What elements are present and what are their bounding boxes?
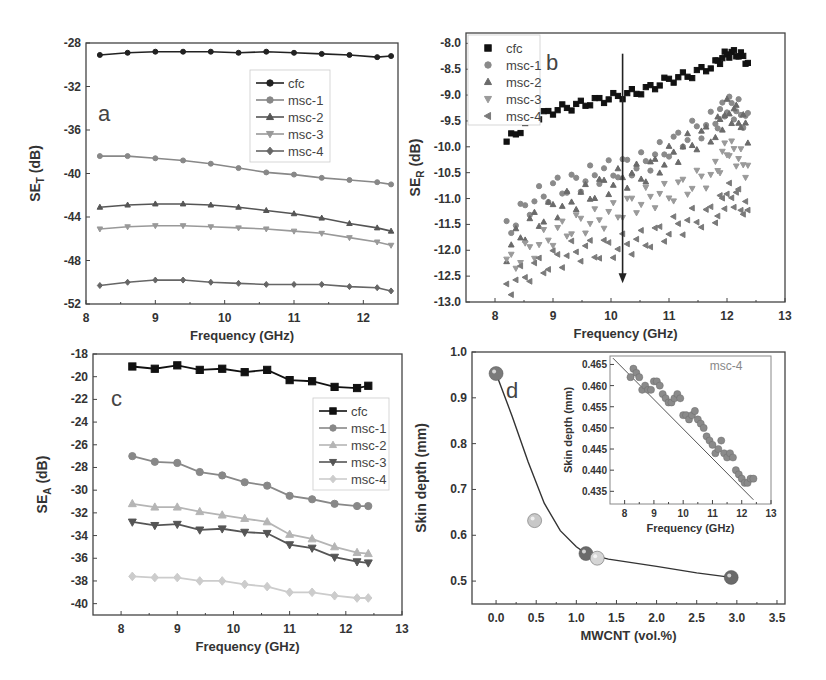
data-point bbox=[508, 292, 513, 298]
data-point bbox=[690, 76, 695, 81]
legend-marker-icon bbox=[485, 62, 491, 68]
panel-letter: c bbox=[111, 386, 122, 411]
data-point bbox=[518, 235, 524, 240]
data-point bbox=[319, 51, 324, 56]
data-point bbox=[722, 141, 728, 146]
y-tick-label: 0.5 bbox=[450, 574, 467, 588]
legend-label: msc-4 bbox=[506, 109, 541, 124]
data-point bbox=[601, 226, 607, 231]
data-point bbox=[694, 219, 699, 225]
data-point bbox=[564, 234, 570, 239]
y-tick-label: 0.9 bbox=[450, 391, 467, 405]
data-point bbox=[292, 281, 297, 287]
data-point bbox=[331, 500, 338, 507]
data-point bbox=[388, 228, 394, 233]
x-tick-label: 1.5 bbox=[608, 611, 625, 625]
data-point bbox=[606, 97, 611, 102]
data-point bbox=[264, 227, 270, 232]
data-point bbox=[738, 147, 744, 152]
data-point bbox=[671, 134, 676, 139]
panel-letter: d bbox=[506, 378, 518, 403]
data-point bbox=[319, 175, 324, 180]
x-tick-label: 12 bbox=[339, 622, 353, 636]
y-tick-label: -44 bbox=[64, 210, 82, 224]
data-point bbox=[745, 163, 751, 168]
legend-marker-icon bbox=[485, 45, 491, 51]
data-point bbox=[712, 220, 717, 226]
x-tick-label: 12 bbox=[357, 311, 371, 325]
data-point bbox=[671, 80, 676, 85]
inset-data-point bbox=[636, 374, 643, 381]
data-point bbox=[365, 382, 372, 389]
data-point bbox=[174, 362, 181, 369]
data-point bbox=[638, 228, 643, 234]
data-point bbox=[489, 367, 503, 381]
y-tick-label: -36 bbox=[64, 123, 82, 137]
data-point bbox=[733, 164, 739, 169]
data-point bbox=[657, 83, 662, 88]
panel-letter: a bbox=[98, 101, 111, 126]
data-point bbox=[375, 180, 380, 185]
data-point bbox=[578, 258, 583, 264]
data-point bbox=[181, 277, 186, 283]
data-point bbox=[569, 108, 574, 113]
data-point bbox=[615, 246, 620, 252]
panel-letter: b bbox=[546, 50, 558, 75]
data-point bbox=[375, 285, 380, 291]
data-point bbox=[724, 570, 738, 584]
y-tick-label: 0.445 bbox=[582, 444, 607, 455]
data-point bbox=[536, 184, 541, 189]
legend: cfcmsc-1msc-2msc-3msc-4 bbox=[250, 70, 330, 162]
x-tick-label: 13 bbox=[395, 622, 409, 636]
y-tick-label: 0.455 bbox=[582, 402, 607, 413]
data-point bbox=[219, 577, 226, 586]
y-tick-label: -40 bbox=[71, 597, 89, 611]
inset-title: msc-4 bbox=[710, 359, 743, 373]
x-tick-label: 10 bbox=[227, 622, 241, 636]
data-point bbox=[606, 158, 611, 163]
data-point bbox=[365, 502, 372, 509]
data-point bbox=[657, 139, 662, 144]
data-point bbox=[374, 225, 380, 230]
x-axis-label: MWCNT (vol.%) bbox=[580, 628, 676, 643]
x-tick-label: 0.0 bbox=[488, 611, 505, 625]
data-point bbox=[541, 228, 547, 233]
data-point bbox=[717, 106, 722, 111]
data-point bbox=[731, 147, 737, 152]
x-tick-label: 10 bbox=[678, 508, 690, 519]
legend-marker-icon bbox=[330, 408, 336, 414]
data-point bbox=[292, 172, 297, 177]
series-msc-4 bbox=[97, 277, 393, 294]
inset-data-point bbox=[750, 475, 757, 482]
data-point bbox=[694, 168, 700, 173]
data-point bbox=[652, 206, 658, 211]
data-point bbox=[606, 209, 612, 214]
y-tick-label: -12.5 bbox=[434, 269, 462, 283]
y-tick-label: -10.0 bbox=[434, 140, 462, 154]
data-point bbox=[153, 156, 158, 161]
data-point bbox=[578, 216, 584, 221]
data-point bbox=[331, 383, 338, 390]
data-point bbox=[573, 206, 579, 211]
data-point bbox=[564, 253, 569, 259]
data-point bbox=[574, 175, 579, 180]
legend-label: msc-3 bbox=[351, 455, 386, 470]
data-point bbox=[606, 191, 612, 196]
data-point bbox=[286, 492, 293, 499]
data-point bbox=[715, 126, 720, 131]
data-point bbox=[555, 225, 561, 230]
data-point bbox=[624, 185, 630, 190]
data-point bbox=[389, 182, 394, 187]
data-point bbox=[583, 231, 589, 236]
data-point bbox=[680, 232, 685, 238]
series-msc-2 bbox=[128, 499, 372, 556]
data-point bbox=[703, 207, 708, 213]
x-axis-label: Frequency (GHz) bbox=[646, 522, 734, 534]
data-point bbox=[208, 225, 214, 230]
data-point bbox=[559, 219, 565, 224]
data-point bbox=[713, 159, 719, 164]
data-point bbox=[219, 472, 226, 479]
data-point bbox=[389, 54, 394, 59]
data-point bbox=[643, 185, 649, 190]
y-tick-label: 0.440 bbox=[582, 465, 607, 476]
